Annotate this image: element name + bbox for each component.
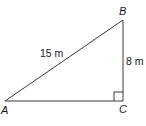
vertex-label-a: A [0,104,8,116]
right-angle-marker-icon [114,92,123,101]
vertex-label-c: C [119,103,127,115]
side-label-bc: 8 m [126,55,144,67]
side-ab-hypotenuse [5,20,123,101]
side-label-ab: 15 m [40,47,64,59]
triangle-edges [5,20,123,101]
triangle-diagram: B A C 15 m 8 m [0,0,146,126]
vertex-label-b: B [119,5,126,17]
